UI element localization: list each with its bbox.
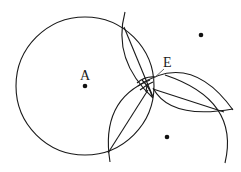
point-a <box>83 84 88 89</box>
label-e: E <box>163 55 172 70</box>
chord-upper <box>124 27 153 97</box>
point-bottom-right <box>165 135 170 140</box>
point-top-right <box>199 33 204 38</box>
arc-lower-left <box>108 80 150 162</box>
arc-lower-right-circle <box>165 75 228 163</box>
arc-right-lower <box>153 88 233 112</box>
label-a: A <box>80 68 91 83</box>
geometry-diagram: A E <box>0 0 241 172</box>
chord-lower <box>108 90 148 153</box>
arc-right-upper <box>138 73 233 111</box>
